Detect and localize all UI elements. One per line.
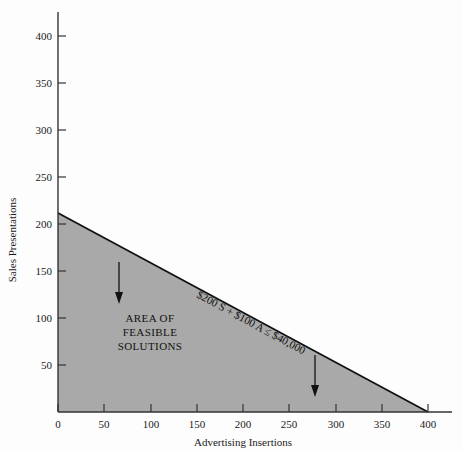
x-tick-label: 200 bbox=[235, 418, 252, 430]
linear-programming-chart: 400 350 300 250 200 150 100 50 0 50 100 bbox=[0, 0, 462, 452]
x-tick-label: 350 bbox=[374, 418, 391, 430]
y-axis-tick-labels: 400 350 300 250 200 150 100 50 bbox=[36, 30, 53, 371]
feasible-label-line-1: AREA OF bbox=[126, 312, 175, 324]
x-tick-label: 100 bbox=[143, 418, 160, 430]
y-tick-label: 300 bbox=[36, 124, 53, 136]
x-tick-label: 50 bbox=[99, 418, 111, 430]
feasible-label-line-3: SOLUTIONS bbox=[118, 340, 183, 352]
y-axis-title: Sales Presentations bbox=[6, 198, 18, 283]
x-tick-label: 150 bbox=[189, 418, 206, 430]
x-tick-label: 250 bbox=[281, 418, 298, 430]
y-tick-label: 350 bbox=[36, 77, 53, 89]
y-tick-label: 100 bbox=[36, 312, 53, 324]
x-tick-label: 0 bbox=[55, 418, 61, 430]
x-axis-title: Advertising Insertions bbox=[194, 436, 292, 448]
y-tick-label: 200 bbox=[36, 218, 53, 230]
y-tick-label: 250 bbox=[36, 171, 53, 183]
y-tick-label: 50 bbox=[41, 359, 53, 371]
x-tick-label: 300 bbox=[328, 418, 345, 430]
y-tick-label: 150 bbox=[36, 265, 53, 277]
feasible-region-label: AREA OF FEASIBLE SOLUTIONS bbox=[118, 312, 183, 352]
x-tick-label: 400 bbox=[420, 418, 437, 430]
x-axis-tick-labels: 0 50 100 150 200 250 300 350 400 bbox=[55, 418, 437, 430]
chart-svg: 400 350 300 250 200 150 100 50 0 50 100 bbox=[0, 0, 462, 452]
y-tick-label: 400 bbox=[36, 30, 53, 42]
feasible-label-line-2: FEASIBLE bbox=[123, 326, 178, 338]
